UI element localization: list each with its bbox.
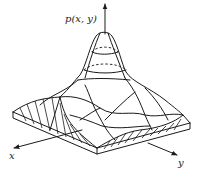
left-wall-hatching (20, 98, 90, 146)
contour-upper-solid (92, 52, 118, 54)
meridian-right (108, 33, 125, 78)
surface (13, 32, 190, 154)
contour-lower-solid (84, 70, 126, 73)
grid-line-5 (125, 78, 152, 130)
y-axis-label: y (177, 157, 184, 168)
x-axis-label: x (9, 150, 15, 161)
surface-svg: p(x, y) x y (0, 0, 200, 176)
grid-line-8 (105, 92, 135, 120)
grid-line-3 (70, 115, 150, 128)
y-axis-arrow (148, 143, 177, 155)
z-axis-label: p(x, y) (65, 13, 97, 24)
meridian-left (85, 33, 100, 78)
contour-base (78, 79, 130, 81)
grid-line-7 (80, 108, 100, 120)
probability-surface-figure: p(x, y) x y (0, 0, 200, 176)
right-side-profile (97, 115, 190, 148)
surface-silhouette (60, 32, 183, 115)
